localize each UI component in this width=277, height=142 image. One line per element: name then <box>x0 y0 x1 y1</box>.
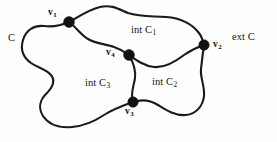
arc-inner-v1-v4 <box>69 22 129 55</box>
arc-inner-v4-v2 <box>129 45 204 67</box>
label-interior-region-2: int C2 <box>152 77 177 88</box>
label-interior-region-3: int C3 <box>85 78 110 89</box>
curve-canvas <box>0 0 277 142</box>
jordan-curve-figure: C ext C int C1 int C2 int C3 v1 v2 v3 v4 <box>0 0 277 142</box>
label-vertex-v4: v4 <box>106 48 114 58</box>
label-exterior-region: ext C <box>232 32 255 43</box>
arc-left-lobe-v1-v3 <box>22 22 133 127</box>
label-vertex-v3: v3 <box>125 107 133 117</box>
label-vertex-v2: v2 <box>213 40 221 50</box>
label-interior-region-1: int C1 <box>131 25 156 36</box>
vertex-dot-v4 <box>124 50 135 61</box>
vertex-dot-v1 <box>64 17 75 28</box>
vertex-dot-v2 <box>199 40 209 50</box>
label-outer-curve: C <box>8 33 15 44</box>
arc-inner-v4-v3 <box>129 55 135 102</box>
label-vertex-v1: v1 <box>48 8 56 18</box>
